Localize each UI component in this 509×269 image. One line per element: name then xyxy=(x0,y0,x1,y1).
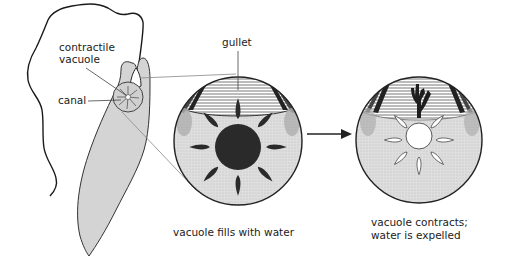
label-gullet: gullet xyxy=(222,36,252,48)
label-canal: canal xyxy=(58,94,86,106)
caption-vacuole-contracts-line1: vacuole contracts; xyxy=(371,216,468,229)
zoom-line-top xyxy=(140,74,236,78)
vacuole-filled xyxy=(215,124,261,170)
caption-vacuole-fills: vacuole fills with water xyxy=(173,226,294,239)
label-contractile-vacuole-line1: contractile xyxy=(59,41,115,53)
panel-vacuole-contracts xyxy=(352,74,486,203)
caption-vacuole-contracts: vacuole contracts; water is expelled xyxy=(371,216,468,242)
label-contractile-vacuole-line2: vacuole xyxy=(59,53,115,65)
right-arrow-icon xyxy=(307,129,352,139)
label-contractile-vacuole: contractile vacuole xyxy=(59,41,115,65)
contractile-vacuole-diagram: contractile vacuole canal gullet vacuole… xyxy=(0,0,509,269)
vacuole-empty xyxy=(406,123,432,149)
panel-vacuole-fills xyxy=(170,51,306,205)
caption-vacuole-contracts-line2: water is expelled xyxy=(371,229,468,242)
